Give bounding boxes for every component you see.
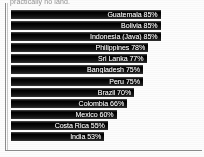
- bar: Philippines 78%: [11, 43, 148, 52]
- bar-label: Sri Lanka 77%: [98, 55, 144, 63]
- bar-row: Sri Lanka 77%: [11, 54, 201, 63]
- bar-row: Guatemala 85%: [11, 10, 201, 19]
- bar-label: Philippines 78%: [96, 44, 146, 52]
- bar-label: Bangladesh 75%: [87, 66, 140, 74]
- bar-label: India 53%: [70, 133, 101, 141]
- bar: Peru 75%: [11, 77, 143, 86]
- chart-frame-left-rule: [5, 3, 6, 151]
- bar-chart-plot-area: Guatemala 85%Bolivia 85%Indonesia (Java)…: [11, 10, 201, 149]
- bar-row: Colombia 66%: [11, 99, 201, 108]
- bar-row: India 53%: [11, 132, 201, 141]
- bar-label: Indonesia (Java) 85%: [90, 33, 158, 41]
- bar: Mexico 60%: [11, 110, 117, 119]
- bar: India 53%: [11, 132, 104, 141]
- bar-label: Costa Rica 55%: [55, 122, 105, 130]
- bar-row: Bangladesh 75%: [11, 65, 201, 74]
- figure-caption-fragment: practically no land.: [10, 0, 200, 6]
- bar-row: Brazil 70%: [11, 88, 201, 97]
- bar-label: Colombia 66%: [79, 100, 125, 108]
- bar: Bolivia 85%: [11, 21, 161, 30]
- bar-chart-figure: practically no land. Guatemala 85%Bolivi…: [0, 0, 204, 157]
- bar-label: Peru 75%: [109, 78, 140, 86]
- bar: Colombia 66%: [11, 99, 127, 108]
- bar-row: Philippines 78%: [11, 43, 201, 52]
- bar: Guatemala 85%: [11, 10, 161, 19]
- bar: Indonesia (Java) 85%: [11, 32, 161, 41]
- bar-row: Peru 75%: [11, 77, 201, 86]
- bar-label: Bolivia 85%: [121, 22, 158, 30]
- chart-frame-bottom-rule: [5, 150, 202, 151]
- bar-row: Costa Rica 55%: [11, 121, 201, 130]
- bar-row: Mexico 60%: [11, 110, 201, 119]
- bar-row: Bolivia 85%: [11, 21, 201, 30]
- bar-label: Mexico 60%: [75, 111, 113, 119]
- bar-row: Indonesia (Java) 85%: [11, 32, 201, 41]
- bar: Bangladesh 75%: [11, 65, 143, 74]
- bar: Sri Lanka 77%: [11, 54, 147, 63]
- bar: Brazil 70%: [11, 88, 134, 97]
- bar-label: Brazil 70%: [98, 89, 131, 97]
- chart-frame-left-rule-inner: [7, 3, 8, 151]
- bar-label: Guatemala 85%: [107, 11, 157, 19]
- bar: Costa Rica 55%: [11, 121, 108, 130]
